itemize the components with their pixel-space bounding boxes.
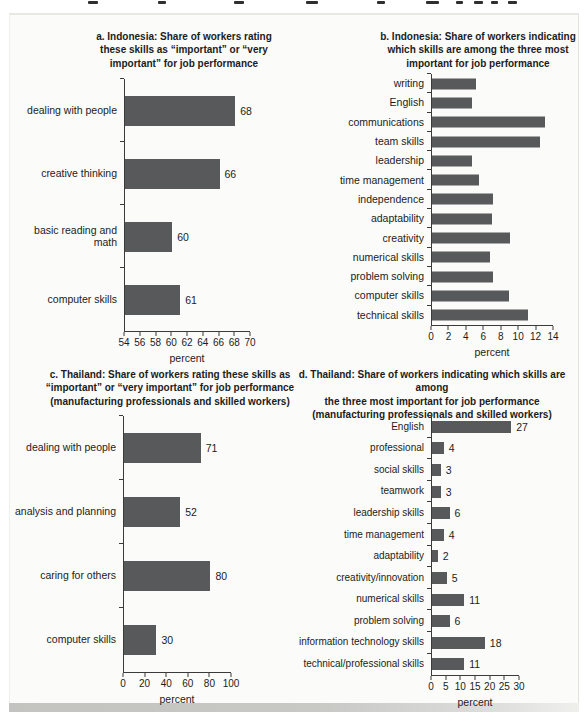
bar-track: 11 <box>431 654 520 676</box>
x-tick-label: 66 <box>213 337 224 348</box>
bar-track: 30 <box>123 608 232 672</box>
bar <box>432 658 464 670</box>
x-tick <box>187 673 188 677</box>
category-label: computer skills <box>292 290 431 301</box>
x-tick-label: 62 <box>181 337 192 348</box>
x-tick-label: 100 <box>223 678 240 689</box>
value-label: 18 <box>490 637 502 649</box>
category-label: independence <box>292 194 431 205</box>
bar-row: social skills3 <box>292 459 520 481</box>
x-axis-spacer <box>12 331 124 351</box>
chart-a-indonesia-skill-rating: a. Indonesia: Share of workers rating th… <box>10 25 290 357</box>
bar-row: analysis and planning52 <box>13 480 232 544</box>
y-axis-tick <box>119 543 123 544</box>
x-tick-label: 8 <box>498 331 504 342</box>
bar <box>432 529 444 541</box>
chart-d-title: d. Thailand: Share of workers indicating… <box>288 368 576 421</box>
y-axis-tick <box>427 501 431 502</box>
y-axis-tick <box>427 227 431 228</box>
y-axis-tick <box>427 437 431 438</box>
bar-track <box>431 74 554 93</box>
bar <box>432 194 493 205</box>
category-label: information technology skills <box>292 637 431 648</box>
bar-row: numerical skills11 <box>292 589 520 611</box>
value-label: 27 <box>516 421 528 433</box>
category-label: caring for others <box>13 570 123 581</box>
category-label: computer skills <box>12 294 124 305</box>
value-label: 6 <box>455 615 461 627</box>
bar-row: basic reading and math60 <box>12 205 251 268</box>
y-axis-tick <box>427 609 431 610</box>
category-label: basic reading and math <box>12 225 124 247</box>
x-tick-label: 68 <box>229 337 240 348</box>
category-label: adaptability <box>292 551 431 562</box>
chart-a-title: a. Indonesia: Share of workers rating th… <box>44 30 324 70</box>
category-label: adaptability <box>292 213 431 224</box>
category-label: technical/professional skills <box>292 659 431 670</box>
x-tick-label: 25 <box>499 681 510 692</box>
bar-row: problem solving6 <box>292 610 520 632</box>
bar-track: 68 <box>124 79 251 142</box>
bar-track: 27 <box>431 416 520 438</box>
chart-b-title: b. Indonesia: Share of workers indicatin… <box>334 30 588 70</box>
x-tick <box>139 332 140 336</box>
cropped-text-fragment <box>508 1 517 4</box>
y-axis-tick <box>427 415 431 416</box>
category-label: leadership skills <box>292 508 431 519</box>
y-axis-tick <box>119 607 123 608</box>
value-label: 3 <box>446 464 452 476</box>
bar-row: computer skills <box>292 286 554 305</box>
x-tick-label: 0 <box>428 331 434 342</box>
category-label: team skills <box>292 136 431 147</box>
bar-row: information technology skills18 <box>292 632 520 654</box>
bar <box>432 637 485 649</box>
bar-row: writing <box>292 74 554 93</box>
x-axis-row: 020406080100 <box>13 672 232 692</box>
x-tick-label: 10 <box>513 331 524 342</box>
category-label: computer skills <box>13 634 123 645</box>
bar-track <box>431 267 554 286</box>
x-tick <box>518 326 519 330</box>
x-tick-label: 6 <box>481 331 487 342</box>
cropped-text-fragment <box>88 1 98 4</box>
value-label: 4 <box>449 442 455 454</box>
bar-track <box>431 248 554 267</box>
x-axis-row: 02468101214 <box>292 325 554 345</box>
x-tick-label: 0 <box>120 678 126 689</box>
x-tick-label: 2 <box>446 331 452 342</box>
cropped-text-fragment <box>306 1 318 4</box>
bar <box>125 159 220 189</box>
x-tick-label: 70 <box>244 337 255 348</box>
bar-track <box>431 190 554 209</box>
y-axis-tick <box>427 545 431 546</box>
chart-c-plot: dealing with people71analysis and planni… <box>13 416 232 705</box>
bar <box>432 310 528 321</box>
value-label: 11 <box>469 594 480 606</box>
bar <box>432 507 450 519</box>
value-label: 80 <box>215 570 227 582</box>
bar-track: 3 <box>431 481 520 503</box>
bar-track: 4 <box>431 438 520 460</box>
bar-row: time management4 <box>292 524 520 546</box>
x-tick <box>171 332 172 336</box>
x-tick <box>209 673 210 677</box>
bar-track: 6 <box>431 502 520 524</box>
x-axis-spacer <box>292 675 431 695</box>
x-tick <box>234 332 235 336</box>
bar-track <box>431 151 554 170</box>
cropped-text-fragment <box>426 1 439 4</box>
bar-track <box>431 93 554 112</box>
bar-row: creativity/innovation5 <box>292 567 520 589</box>
category-label: problem solving <box>292 271 431 282</box>
bar-track: 2 <box>431 546 520 568</box>
y-axis-tick <box>427 73 431 74</box>
y-axis-tick <box>427 480 431 481</box>
category-label: dealing with people <box>12 105 124 116</box>
value-label: 4 <box>449 529 455 541</box>
x-tick <box>144 673 145 677</box>
bar <box>432 271 493 282</box>
x-tick <box>218 332 219 336</box>
y-axis-tick <box>427 523 431 524</box>
x-tick-label: 0 <box>428 681 434 692</box>
y-axis-tick <box>427 266 431 267</box>
